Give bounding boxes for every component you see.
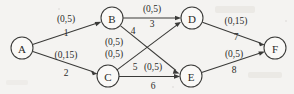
- edge-c-to-d-capacity: (0,5): [105, 49, 123, 60]
- node-a-label: A: [18, 43, 26, 55]
- edge-b-to-e-index: 4: [131, 26, 136, 36]
- edge-b-to-d-index: 3: [150, 19, 155, 29]
- edge-e-to-f-index: 8: [232, 65, 237, 75]
- node-f-label: F: [272, 43, 278, 55]
- node-a[interactable]: A: [11, 37, 33, 59]
- node-d-label: D: [188, 13, 196, 25]
- edge-a-to-b-index: 1: [64, 28, 69, 38]
- node-c[interactable]: C: [97, 65, 119, 87]
- edge-b-to-d-capacity: (0,5): [143, 4, 161, 15]
- edge-e-to-f-arrowhead: [258, 51, 265, 55]
- node-d[interactable]: D: [181, 7, 203, 29]
- edge-d-to-f-capacity: (0,15): [225, 16, 248, 27]
- network-flow-diagram: (0,5) 1 (0,15) 2 (0,5) 3 (0,5) 4 (0,5) 5…: [0, 0, 294, 94]
- edge-c-to-e-index: 6: [151, 81, 156, 91]
- node-f[interactable]: F: [264, 37, 286, 59]
- node-e[interactable]: E: [180, 65, 202, 87]
- edge-c-to-e-capacity: (0,5): [144, 62, 162, 73]
- edge-c-to-d-index: 5: [133, 62, 138, 72]
- edge-a-to-c-index: 2: [64, 68, 69, 78]
- edge-c-to-e: [119, 74, 180, 79]
- edge-b-to-e-capacity: (0,5): [105, 37, 123, 48]
- diagram-canvas: (0,5) 1 (0,15) 2 (0,5) 3 (0,5) 4 (0,5) 5…: [0, 0, 294, 94]
- node-c-label: C: [104, 71, 111, 83]
- edge-a-to-c-capacity: (0,15): [55, 50, 78, 61]
- edge-b-to-e-arrowhead: [173, 69, 180, 73]
- edge-label-group: (0,5) 1 (0,15) 2 (0,5) 3 (0,5) 4 (0,5) 5…: [55, 4, 248, 91]
- edge-c-to-e-arrowhead: [174, 74, 180, 79]
- edge-b-to-d-arrowhead: [175, 16, 181, 21]
- edge-e-to-f-capacity: (0,5): [225, 49, 243, 60]
- edge-d-to-f-index: 7: [234, 32, 239, 42]
- node-e-label: E: [188, 71, 195, 83]
- edge-a-to-b-arrowhead: [95, 22, 102, 27]
- edge-a-to-b-capacity: (0,5): [57, 14, 75, 25]
- node-b-label: B: [108, 13, 115, 25]
- node-b[interactable]: B: [101, 7, 123, 29]
